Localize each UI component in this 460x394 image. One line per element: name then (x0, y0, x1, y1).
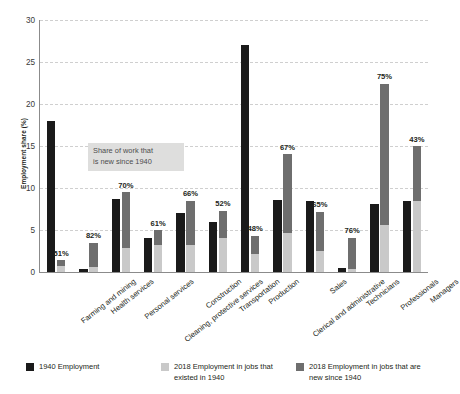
bar-1940-employment[interactable] (306, 201, 315, 272)
legend-swatch-1940 (26, 363, 34, 371)
bar-2018-stacked[interactable] (186, 201, 195, 272)
bar-group: 67% (266, 20, 298, 272)
bar-segment-new-since-1940 (251, 236, 260, 254)
annotation-callout: Share of work that is new since 1940 (88, 143, 184, 171)
data-label-pct-new: 82% (86, 231, 101, 240)
bar-group: 65% (299, 20, 331, 272)
data-label-pct-new: 67% (280, 143, 295, 152)
bar-2018-stacked[interactable] (316, 212, 325, 272)
data-label-pct-new: 61% (151, 219, 166, 228)
annotation-line-2: is new since 1940 (93, 157, 179, 168)
bar-2018-stacked[interactable] (380, 84, 389, 272)
bar-group: 76% (331, 20, 363, 272)
bar-segment-new-since-1940 (348, 238, 357, 269)
bar-2018-stacked[interactable] (89, 243, 98, 272)
data-label-pct-new: 51% (54, 249, 69, 258)
bar-group: 43% (396, 20, 428, 272)
bar-segment-existed-1940 (413, 201, 422, 272)
bar-1940-employment[interactable] (112, 199, 121, 272)
legend-item[interactable]: 2018 Employment in jobs that are new sin… (296, 362, 426, 384)
bar-segment-new-since-1940 (380, 84, 389, 225)
y-axis-tick-30: 30 (13, 16, 35, 25)
data-label-pct-new: 52% (215, 199, 230, 208)
y-axis-tick-15: 15 (13, 142, 35, 151)
bar-2018-stacked[interactable] (219, 211, 228, 272)
bar-segment-existed-1940 (219, 238, 228, 272)
bar-segment-new-since-1940 (57, 260, 66, 266)
bar-segment-existed-1940 (89, 267, 98, 272)
legend-swatch-2018-existed (161, 363, 169, 371)
bar-group: 51% (40, 20, 72, 272)
data-label-pct-new: 70% (118, 181, 133, 190)
bar-2018-stacked[interactable] (413, 146, 422, 272)
bar-segment-existed-1940 (348, 269, 357, 272)
y-axis-tick-labels: 051015202530 (0, 0, 35, 394)
bar-1940-employment[interactable] (403, 201, 412, 272)
bar-1940-employment[interactable] (209, 222, 218, 272)
annotation-line-1: Share of work that (93, 146, 179, 157)
bar-1940-employment[interactable] (176, 213, 185, 272)
bar-segment-new-since-1940 (122, 192, 131, 247)
bar-segment-existed-1940 (154, 245, 163, 272)
legend-label: 2018 Employment in jobs that are new sin… (309, 362, 426, 384)
bar-1940-employment[interactable] (79, 269, 88, 272)
bar-segment-existed-1940 (122, 248, 131, 272)
bar-2018-stacked[interactable] (283, 154, 292, 272)
bar-1940-employment[interactable] (370, 204, 379, 272)
bar-segment-new-since-1940 (186, 201, 195, 246)
legend-item[interactable]: 2018 Employment in jobs that existed in … (161, 362, 296, 384)
bar-segment-new-since-1940 (89, 243, 98, 267)
data-label-pct-new: 65% (312, 200, 327, 209)
bar-1940-employment[interactable] (273, 200, 282, 272)
bar-segment-new-since-1940 (413, 146, 422, 201)
bar-1940-employment[interactable] (241, 45, 250, 272)
y-axis-tick-0: 0 (13, 268, 35, 277)
bar-segment-existed-1940 (57, 266, 66, 272)
x-axis-label-sales[interactable]: Sales (328, 277, 349, 296)
bar-segment-existed-1940 (316, 251, 325, 272)
bar-2018-stacked[interactable] (122, 192, 131, 272)
data-label-pct-new: 76% (345, 226, 360, 235)
bar-segment-existed-1940 (380, 225, 389, 272)
bar-segment-existed-1940 (186, 245, 195, 272)
y-axis-tick-5: 5 (13, 226, 35, 235)
bar-segment-new-since-1940 (283, 154, 292, 232)
legend-label: 2018 Employment in jobs that existed in … (174, 362, 296, 384)
legend-swatch-2018-new (296, 363, 304, 371)
bar-group: 75% (363, 20, 395, 272)
bar-segment-existed-1940 (251, 254, 260, 272)
bar-group: 48% (234, 20, 266, 272)
bar-2018-stacked[interactable] (348, 238, 357, 272)
bar-group: 52% (202, 20, 234, 272)
bar-2018-stacked[interactable] (251, 236, 260, 272)
data-label-pct-new: 48% (248, 224, 263, 233)
legend-item[interactable]: 1940 Employment (26, 362, 161, 373)
data-label-pct-new: 75% (377, 72, 392, 81)
bar-segment-new-since-1940 (219, 211, 228, 239)
bar-segment-existed-1940 (283, 233, 292, 272)
chart-legend: 1940 Employment2018 Employment in jobs t… (26, 362, 426, 384)
bar-segment-new-since-1940 (154, 230, 163, 245)
bar-segment-new-since-1940 (316, 212, 325, 251)
y-axis-tick-25: 25 (13, 58, 35, 67)
legend-label: 1940 Employment (39, 362, 99, 373)
data-label-pct-new: 66% (183, 189, 198, 198)
x-axis-label-clerical-and-administrative[interactable]: Clerical and administrative (310, 277, 386, 339)
bar-2018-stacked[interactable] (154, 230, 163, 272)
bar-2018-stacked[interactable] (57, 260, 66, 272)
data-label-pct-new: 43% (409, 135, 424, 144)
y-axis-tick-10: 10 (13, 184, 35, 193)
bar-1940-employment[interactable] (338, 268, 347, 272)
bar-1940-employment[interactable] (144, 238, 153, 272)
y-axis-tick-20: 20 (13, 100, 35, 109)
